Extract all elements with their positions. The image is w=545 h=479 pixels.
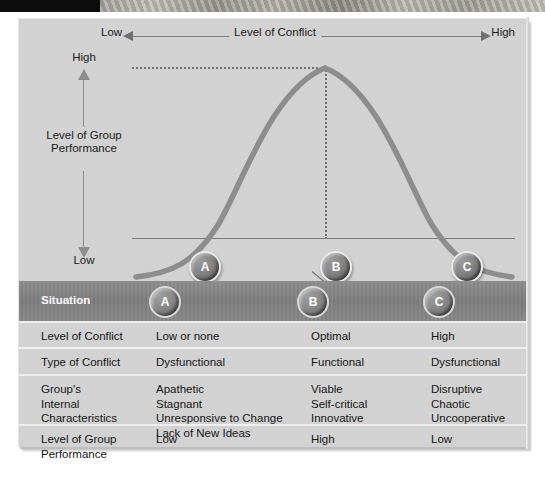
comparison-table: Level of Conflict Low or none Optimal Hi… (19, 321, 527, 447)
situation-header-bar: Situation A B C (19, 281, 527, 321)
top-black-strip (0, 0, 100, 12)
conflict-performance-figure: Low Level of Conflict High High Level of… (18, 18, 527, 447)
cell-c: Dysfunctional (431, 355, 500, 370)
y-axis-line-upper (83, 79, 84, 127)
chart-marker-c: C (451, 251, 483, 283)
situation-marker-c: C (423, 286, 455, 318)
row-label: Group's Internal Characteristics (41, 382, 117, 426)
table-row: Group's Internal Characteristics Apathet… (19, 374, 527, 426)
y-axis-low-label: Low (49, 254, 119, 266)
arrow-left-icon (123, 31, 133, 41)
y-axis-title: Level of Group Performance (37, 129, 131, 155)
row-label: Level of Conflict (41, 329, 123, 344)
arrow-right-icon (481, 31, 491, 41)
cell-b: Viable Self-critical Innovative (311, 382, 367, 426)
bell-curve (132, 49, 515, 281)
cell-c: Disruptive Chaotic Uncooperative (431, 382, 505, 426)
x-axis-title: Level of Conflict (229, 26, 321, 38)
situation-marker-a: A (149, 286, 181, 318)
cell-a: Low (156, 432, 177, 447)
plot-region (132, 49, 515, 271)
x-axis-high-label: High (491, 26, 515, 38)
chart-marker-b: B (320, 251, 352, 283)
table-row: Level of Conflict Low or none Optimal Hi… (19, 321, 527, 349)
situation-marker-b: B (297, 286, 329, 318)
x-axis-low-label: Low (101, 26, 122, 38)
cell-b: High (311, 432, 335, 447)
row-label: Level of Group Performance (41, 432, 116, 461)
table-row: Level of Group Performance Low High Low (19, 424, 527, 449)
y-axis-high-label: High (49, 51, 119, 63)
cell-b: Optimal (311, 329, 351, 344)
cell-a: Dysfunctional (156, 355, 225, 370)
chart-area: Low Level of Conflict High High Level of… (19, 19, 527, 281)
cell-b: Functional (311, 355, 364, 370)
y-axis-line-lower (83, 171, 84, 249)
row-label: Type of Conflict (41, 355, 120, 370)
chart-marker-a: A (189, 251, 221, 283)
arrow-up-icon (78, 69, 90, 80)
table-row: Type of Conflict Dysfunctional Functiona… (19, 347, 527, 376)
cell-a: Low or none (156, 329, 219, 344)
cell-c: Low (431, 432, 452, 447)
x-axis: Low Level of Conflict High (19, 23, 527, 45)
top-texture-strip (100, 0, 545, 12)
cell-c: High (431, 329, 455, 344)
situation-label: Situation (41, 294, 90, 306)
